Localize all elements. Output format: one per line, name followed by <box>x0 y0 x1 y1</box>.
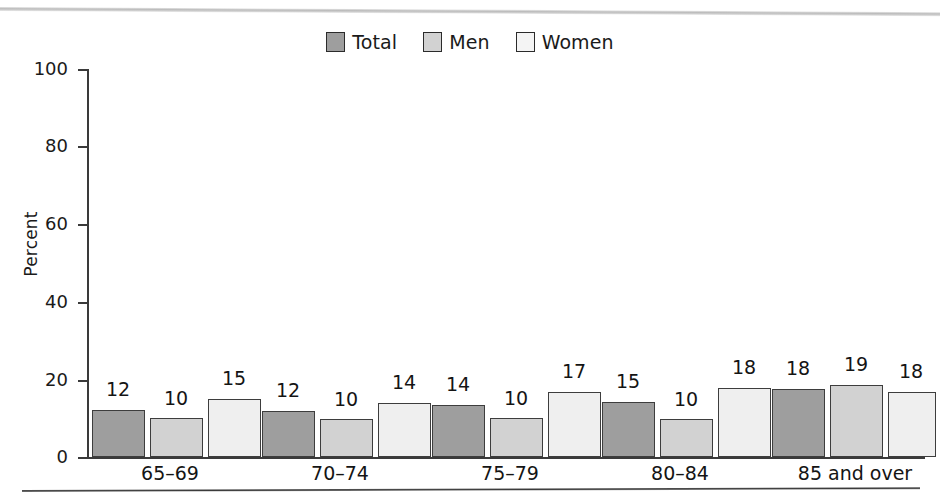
bar-value-total-70-74: 12 <box>276 379 300 401</box>
bar-men-65-69[interactable] <box>150 418 203 457</box>
y-tick-40 <box>78 302 88 304</box>
bar-value-women-65-69: 15 <box>222 367 246 389</box>
y-tick-label-80: 80 <box>24 135 68 156</box>
x-axis-line <box>87 457 925 459</box>
bar-value-men-65-69: 10 <box>164 387 188 409</box>
x-tick-label-80-84: 80–84 <box>651 462 709 484</box>
bar-men-80-84[interactable] <box>660 419 713 457</box>
y-tick-label-100: 100 <box>24 58 68 79</box>
y-tick-label-0: 0 <box>24 446 68 467</box>
y-tick-label-40: 40 <box>24 291 68 312</box>
bar-total-70-74[interactable] <box>262 411 315 457</box>
bar-value-women-75-79: 17 <box>562 360 586 382</box>
bar-value-men-80-84: 10 <box>674 388 698 410</box>
y-tick-80 <box>78 146 88 148</box>
x-tick-label-75-79: 75–79 <box>481 462 539 484</box>
bar-total-85-and-over[interactable] <box>772 389 825 457</box>
y-tick-label-60: 60 <box>24 213 68 234</box>
bar-value-men-75-79: 10 <box>504 387 528 409</box>
y-tick-60 <box>78 224 88 226</box>
x-tick-label-85-and-over: 85 and over <box>798 462 912 484</box>
x-tick-label-70-74: 70–74 <box>311 462 369 484</box>
bar-total-80-84[interactable] <box>602 402 655 457</box>
y-axis-line <box>87 69 89 458</box>
figure-bar-chart: Total Men Women Percent 100 80 60 40 20 … <box>0 0 940 502</box>
y-tick-label-20: 20 <box>24 369 68 390</box>
bar-men-70-74[interactable] <box>320 419 373 457</box>
bar-total-75-79[interactable] <box>432 405 485 457</box>
bar-value-men-85-and-over: 19 <box>844 353 868 375</box>
y-tick-0 <box>78 457 88 459</box>
y-tick-100 <box>78 69 88 71</box>
bar-value-women-85-and-over: 18 <box>899 360 923 382</box>
bar-value-total-85-and-over: 18 <box>786 357 810 379</box>
bar-men-75-79[interactable] <box>490 418 543 457</box>
bar-women-65-69[interactable] <box>208 399 261 457</box>
bar-women-85-and-over[interactable] <box>888 392 936 457</box>
bar-men-85-and-over[interactable] <box>830 385 883 457</box>
bar-value-women-70-74: 14 <box>392 371 416 393</box>
bar-value-total-65-69: 12 <box>106 378 130 400</box>
bar-value-total-75-79: 14 <box>446 373 470 395</box>
bar-value-women-80-84: 18 <box>732 356 756 378</box>
bar-women-75-79[interactable] <box>548 392 601 457</box>
y-tick-20 <box>78 380 88 382</box>
x-tick-label-65-69: 65–69 <box>141 462 199 484</box>
bar-women-80-84[interactable] <box>718 388 771 457</box>
bar-value-men-70-74: 10 <box>334 388 358 410</box>
bar-value-total-80-84: 15 <box>616 370 640 392</box>
bar-total-65-69[interactable] <box>92 410 145 457</box>
bar-women-70-74[interactable] <box>378 403 431 457</box>
plot-area: Percent 100 80 60 40 20 0 12 10 15 65–69… <box>0 0 940 502</box>
